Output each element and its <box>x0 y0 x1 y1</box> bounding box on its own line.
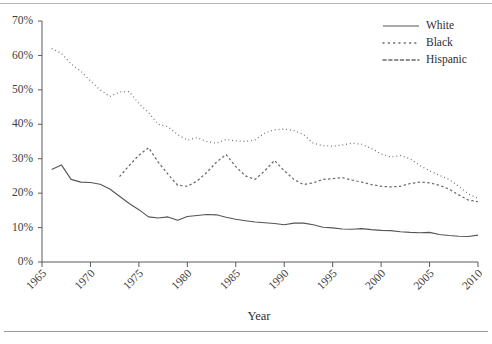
x-tick-label: 1990 <box>266 267 291 292</box>
series-line-hispanic <box>120 148 478 202</box>
series-line-black <box>52 49 478 199</box>
legend-label-white: White <box>426 19 454 31</box>
y-tick-label: 50% <box>12 83 34 95</box>
x-tick-label: 2000 <box>363 267 388 292</box>
chart-legend: WhiteBlackHispanic <box>383 19 467 66</box>
series-layer <box>52 49 478 237</box>
x-tick-label: 1975 <box>121 267 146 292</box>
y-tick-label: 60% <box>12 49 34 61</box>
x-tick-label: 1985 <box>217 267 242 292</box>
series-line-white <box>52 165 478 237</box>
x-axis-title: Year <box>247 309 271 323</box>
x-axis: 1965197019751980198519901995200020052010 <box>24 262 485 292</box>
x-tick-label: 1980 <box>169 267 194 292</box>
x-tick-label: 1970 <box>72 267 97 292</box>
x-tick-label: 1965 <box>24 267 49 292</box>
y-tick-label: 0% <box>18 255 34 267</box>
y-tick-label: 30% <box>12 152 34 164</box>
y-tick-label: 10% <box>12 221 34 233</box>
x-tick-label: 2010 <box>460 267 485 292</box>
y-tick-label: 20% <box>12 186 34 198</box>
legend-label-hispanic: Hispanic <box>426 53 467 66</box>
y-axis: 0%10%20%30%40%50%60%70% <box>12 14 42 267</box>
y-tick-label: 40% <box>12 117 34 129</box>
x-tick-label: 2005 <box>411 267 436 292</box>
legend-label-black: Black <box>426 36 453 48</box>
figure-container: 0%10%20%30%40%50%60%70% 1965197019751980… <box>0 0 492 344</box>
y-tick-label: 70% <box>12 14 34 26</box>
line-chart: 0%10%20%30%40%50%60%70% 1965197019751980… <box>0 0 492 344</box>
x-tick-label: 1995 <box>314 267 339 292</box>
